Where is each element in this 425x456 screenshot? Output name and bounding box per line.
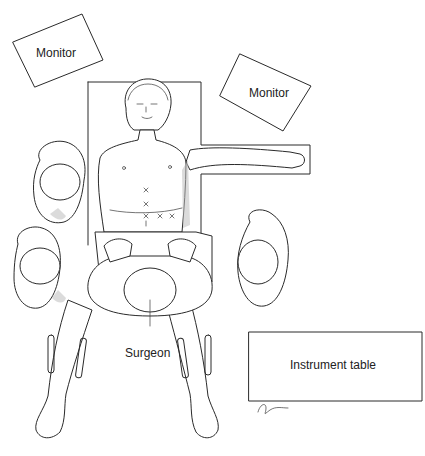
operating-room-diagram <box>0 0 425 456</box>
instrument-table-label: Instrument table <box>290 358 376 372</box>
artist-signature <box>258 405 288 414</box>
assistant-left-bottom <box>14 227 66 308</box>
monitor-left-label: Monitor <box>36 46 76 60</box>
leg-support-right-outer <box>205 335 211 375</box>
surgeon-label: Surgeon <box>125 346 170 360</box>
monitor-right-label: Monitor <box>249 86 289 100</box>
assistant-right <box>238 210 289 306</box>
assistant-left-top <box>33 141 85 223</box>
